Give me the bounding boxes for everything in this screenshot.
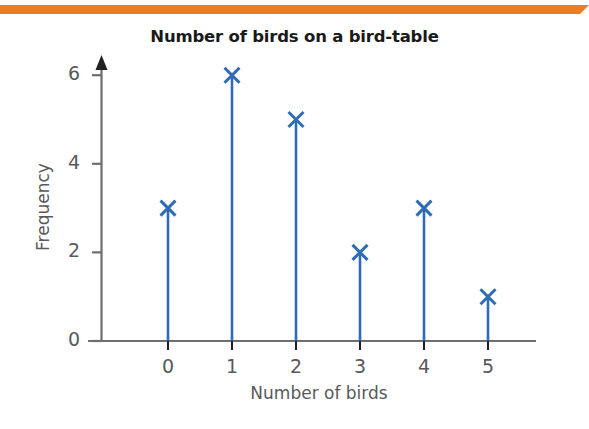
chart-page: Number of birds on a bird-table 0246 012… [0, 0, 589, 429]
y-axis-label: Frequency [33, 147, 53, 267]
data-point-3 [353, 245, 368, 341]
y-axis-arrow-icon [96, 55, 108, 70]
y-tick-label-6: 6 [56, 62, 80, 84]
x-tick-label-0: 0 [153, 355, 183, 377]
x-tick-label-3: 3 [345, 355, 375, 377]
x-tick-label-4: 4 [409, 355, 439, 377]
x-tick-label-2: 2 [281, 355, 311, 377]
data-point-1 [225, 68, 240, 341]
x-tick-label-5: 5 [473, 355, 503, 377]
data-point-4 [417, 201, 432, 341]
y-tick-label-0: 0 [56, 328, 80, 350]
y-tick-label-2: 2 [56, 239, 80, 261]
x-axis-ticks [168, 341, 488, 350]
data-point-0 [161, 201, 176, 341]
data-point-5 [481, 289, 496, 341]
y-axis [96, 55, 108, 341]
data-point-2 [289, 112, 304, 341]
y-axis-ticks [92, 75, 102, 341]
x-tick-label-1: 1 [217, 355, 247, 377]
x-axis-label: Number of birds [104, 383, 534, 403]
y-tick-label-4: 4 [56, 151, 80, 173]
data-series [161, 68, 496, 341]
